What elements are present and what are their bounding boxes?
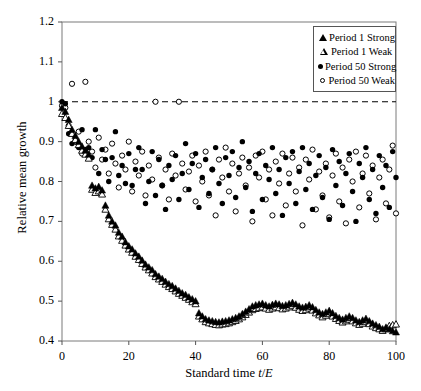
data-point xyxy=(149,149,154,154)
legend-item-1[interactable]: Period 1 Weak xyxy=(314,45,395,60)
open-circle-icon xyxy=(318,78,326,83)
data-point xyxy=(86,139,91,144)
data-point xyxy=(236,171,241,176)
legend-item-0[interactable]: Period 1 Strong xyxy=(314,30,395,45)
data-point xyxy=(113,161,118,166)
chart-legend: Period 1 StrongPeriod 1 WeakPeriod 50 St… xyxy=(313,26,396,92)
data-point xyxy=(246,165,251,170)
data-point xyxy=(300,223,305,228)
data-point xyxy=(223,145,228,150)
data-point xyxy=(287,171,292,176)
data-point xyxy=(63,101,68,106)
data-point xyxy=(210,167,215,172)
data-point xyxy=(353,219,358,224)
data-point xyxy=(387,205,392,210)
legend-item-label: Period 50 Weak xyxy=(326,75,395,86)
data-point xyxy=(83,79,88,84)
data-point xyxy=(370,167,375,172)
x-tick-label: 20 xyxy=(109,349,149,364)
data-point xyxy=(123,181,128,186)
data-point xyxy=(236,165,241,170)
data-point xyxy=(303,187,308,192)
data-point xyxy=(226,173,231,178)
y-tick-label: 0.4 xyxy=(18,333,54,348)
data-point xyxy=(93,127,98,132)
data-point xyxy=(310,207,315,212)
data-point xyxy=(350,189,355,194)
data-point xyxy=(93,165,98,170)
data-point xyxy=(246,159,251,164)
data-point xyxy=(260,197,265,202)
data-point xyxy=(160,183,165,188)
x-tick-label: 40 xyxy=(176,349,216,364)
data-point xyxy=(166,163,171,168)
data-point xyxy=(363,153,368,158)
data-point xyxy=(350,179,355,184)
data-point xyxy=(153,193,158,198)
data-point xyxy=(240,155,245,160)
data-point xyxy=(136,145,141,150)
x-tick-label: 0 xyxy=(42,349,82,364)
data-point xyxy=(306,161,311,166)
data-point xyxy=(276,167,281,172)
data-point xyxy=(307,177,312,182)
data-point xyxy=(310,147,315,152)
data-point xyxy=(126,151,131,156)
data-point xyxy=(223,155,228,160)
data-point xyxy=(377,153,382,158)
data-point xyxy=(190,161,195,166)
data-point xyxy=(79,127,84,132)
data-point xyxy=(146,163,151,168)
y-tick-label: 0.6 xyxy=(18,253,54,268)
data-point xyxy=(230,149,235,154)
data-point xyxy=(106,179,111,184)
data-point xyxy=(183,141,188,146)
y-tick-label: 0.7 xyxy=(18,213,54,228)
data-point xyxy=(256,151,261,156)
data-point xyxy=(373,211,378,216)
x-tick-label: 100 xyxy=(376,349,416,364)
marker-shape xyxy=(320,48,328,55)
data-point xyxy=(293,201,298,206)
legend-item-3[interactable]: Period 50 Weak xyxy=(314,74,395,89)
data-point xyxy=(343,221,348,226)
data-point xyxy=(360,175,365,180)
data-point xyxy=(327,217,332,222)
data-point xyxy=(373,217,378,222)
marker-shape xyxy=(319,34,327,41)
data-point xyxy=(180,161,185,166)
data-point xyxy=(153,99,158,104)
y-tick-label: 0.8 xyxy=(18,174,54,189)
data-point xyxy=(220,201,225,206)
data-point xyxy=(367,191,372,196)
data-point xyxy=(250,209,255,214)
data-point xyxy=(193,199,198,204)
data-point xyxy=(130,189,135,194)
data-point xyxy=(120,153,125,158)
data-point xyxy=(146,179,151,184)
data-point xyxy=(330,147,335,152)
data-point xyxy=(156,157,161,162)
data-point xyxy=(126,139,131,144)
data-point xyxy=(390,149,395,154)
data-point xyxy=(280,213,285,218)
data-point xyxy=(216,181,221,186)
data-point xyxy=(196,205,201,210)
data-point xyxy=(116,185,121,190)
data-point xyxy=(200,175,205,180)
data-point xyxy=(333,183,338,188)
legend-item-2[interactable]: Period 50 Strong xyxy=(314,59,395,74)
marker-shape xyxy=(320,78,325,83)
data-point xyxy=(377,175,382,180)
data-point xyxy=(243,185,248,190)
data-point xyxy=(110,141,115,146)
data-point xyxy=(99,147,104,152)
data-point xyxy=(347,151,352,156)
data-point xyxy=(357,205,362,210)
data-point xyxy=(230,161,235,166)
data-point xyxy=(96,171,101,176)
data-point xyxy=(343,171,348,176)
data-point xyxy=(380,185,385,190)
data-point xyxy=(139,167,144,172)
data-point xyxy=(133,167,138,172)
